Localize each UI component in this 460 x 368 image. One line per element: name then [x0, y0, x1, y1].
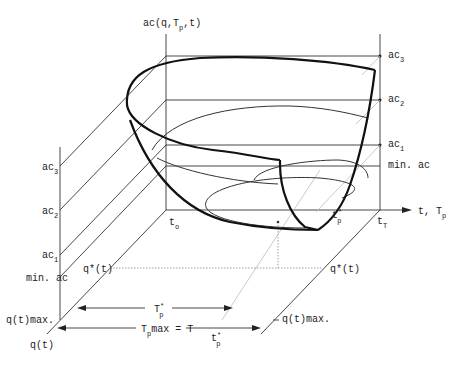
vertical-axis-label: ac(q,Tp,t) [143, 18, 201, 32]
faint-diag-ac3 [362, 56, 380, 75]
tp-star-bottom-label: t*p [211, 331, 221, 348]
surface-left-edge [130, 120, 318, 230]
left-label-ac1: ac1 [42, 250, 58, 264]
arrowhead-left-icon [57, 325, 66, 331]
surface-front-cut [280, 160, 318, 230]
left-label-min-ac: min. ac [26, 273, 68, 284]
right-label-ac2: ac2 [388, 94, 404, 108]
horizontal-axis-label: t, Tp [418, 206, 446, 220]
q-star-right-label: q*(t) [330, 264, 360, 275]
contour-min-ac [254, 160, 368, 180]
right-label-min-ac: min. ac [388, 160, 430, 171]
cost-surface-diagram: ac(q,Tp,t) ac3 ac2 ac1 min. ac t, Tp ac3… [0, 0, 460, 368]
Tp-star-label: T*p [154, 302, 164, 319]
depth-axis-label: q(t) [30, 340, 54, 351]
diag-ac2 [60, 100, 166, 210]
surface-right-edge [318, 70, 375, 230]
Tp-max-label: Tpmax = T [141, 324, 193, 338]
q-max-right-label: q(t)max. [282, 314, 330, 325]
t-axis-arrowhead-icon [402, 207, 412, 213]
optimum-point [277, 221, 280, 224]
left-label-ac3: ac3 [42, 162, 58, 176]
q-star-left-label: q*(t) [83, 264, 113, 275]
diag-ac3 [60, 56, 166, 166]
tT-label: tT [377, 216, 387, 230]
arrowhead-left-icon [77, 305, 86, 311]
right-label-ac1: ac1 [388, 139, 404, 153]
faint-diag-tp [222, 170, 320, 320]
left-label-ac2: ac2 [42, 206, 58, 220]
diag-min-ac [60, 166, 166, 277]
right-label-ac3: ac3 [388, 50, 404, 64]
t0-label: to [169, 217, 179, 231]
arrowhead-right-icon [252, 325, 261, 331]
tp-star-label: t*p [332, 208, 342, 225]
left-label-q-max: q(t)max. [6, 315, 54, 326]
